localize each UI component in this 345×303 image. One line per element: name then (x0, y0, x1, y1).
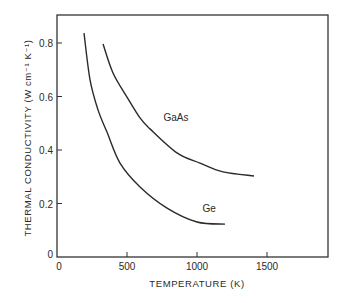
data-series: GaAsGe (84, 33, 254, 224)
x-axis-title: TEMPERATURE (K) (149, 278, 244, 289)
gaas-curve (103, 44, 254, 176)
x-tick-label: 0 (56, 261, 62, 272)
y-tick-label: 0.4 (39, 145, 53, 156)
y-tick-label: 0.6 (39, 92, 53, 103)
ge-curve (84, 33, 225, 224)
y-tick-label: 0.8 (39, 38, 53, 49)
gaas-label: GaAs (163, 112, 188, 123)
y-tick-label: 0 (47, 249, 53, 260)
x-axis-ticks: 050010001500 (56, 252, 278, 272)
ge-label: Ge (203, 203, 217, 214)
thermal-conductivity-chart: 050010001500 00.20.40.60.8 GaAsGe TEMPER… (0, 0, 345, 303)
x-tick-label: 500 (119, 261, 136, 272)
y-axis-ticks: 00.20.40.60.8 (39, 38, 62, 260)
y-axis-title: THERMAL CONDUCTIVITY (W cm⁻¹ K⁻¹) (22, 39, 33, 236)
x-tick-label: 1000 (186, 261, 209, 272)
y-tick-label: 0.2 (39, 199, 53, 210)
x-tick-label: 1500 (256, 261, 279, 272)
